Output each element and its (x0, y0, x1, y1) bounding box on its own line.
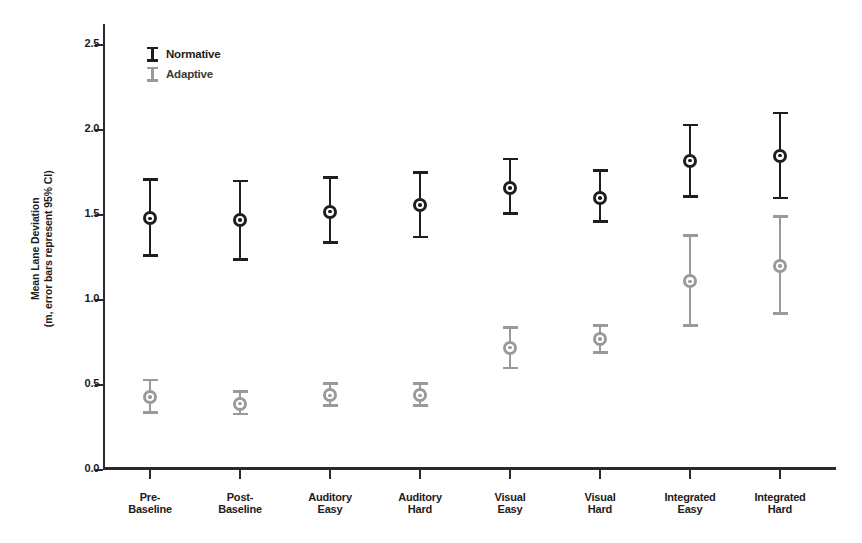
x-axis-line (103, 467, 836, 470)
x-tick-mark (329, 470, 331, 479)
y-tick-label: 1.0 (53, 292, 99, 304)
x-tick-label-line: Baseline (104, 503, 196, 516)
figure-canvas: Mean Lane Deviation (m, error bars repre… (0, 0, 862, 543)
x-tick-mark (509, 470, 511, 479)
chart-legend: NormativeAdaptive (146, 44, 220, 84)
data-point-center-dot (688, 280, 691, 283)
x-tick-label-line: Visual (464, 491, 556, 504)
data-point-errorbar (130, 24, 170, 470)
error-bar-cap-lower (413, 404, 428, 407)
x-tick-label-line: Hard (734, 503, 826, 516)
x-tick-label: IntegratedEasy (644, 491, 736, 516)
error-bar-cap-upper (413, 382, 428, 385)
y-axis-line (103, 24, 105, 470)
x-tick-label-line: Integrated (644, 491, 736, 504)
y-tick-label: 0.0 (53, 462, 99, 474)
data-point-center-dot (148, 395, 151, 398)
legend-item-label: Adaptive (166, 68, 213, 80)
x-tick-label: AuditoryHard (374, 491, 466, 516)
y-tick-label: 0.5 (53, 377, 99, 389)
y-tick-label: 2.0 (53, 122, 99, 134)
error-bar-cap-upper (503, 326, 518, 329)
x-tick-label-line: Hard (374, 503, 466, 516)
data-point-center-dot (778, 264, 781, 267)
x-tick-label-line: Post- (194, 491, 286, 504)
x-tick-label-line: Pre- (104, 491, 196, 504)
x-tick-label: IntegratedHard (734, 491, 826, 516)
data-point-errorbar (760, 24, 800, 470)
legend-errorbar-icon (146, 47, 159, 62)
error-bar-cap-upper (143, 379, 158, 382)
x-tick-label-line: Integrated (734, 491, 826, 504)
x-tick-label: Pre-Baseline (104, 491, 196, 516)
error-bar-cap-lower (773, 312, 788, 315)
legend-item-normative[interactable]: Normative (146, 44, 220, 64)
legend-errorbar-icon (146, 67, 159, 82)
x-tick-mark (689, 470, 691, 479)
error-bar-cap-lower (143, 411, 158, 414)
x-tick-label-line: Auditory (284, 491, 376, 504)
legend-item-label: Normative (166, 48, 220, 60)
x-tick-mark (419, 470, 421, 479)
x-tick-mark (599, 470, 601, 479)
x-tick-label-line: Baseline (194, 503, 286, 516)
data-point-center-dot (328, 394, 331, 397)
error-bar-cap-upper (593, 324, 608, 327)
plot-area: 0.00.51.01.52.02.5 Pre-BaselinePost-Base… (103, 24, 836, 470)
x-tick-mark (149, 470, 151, 479)
error-bar-cap-upper (683, 234, 698, 237)
data-point-errorbar (490, 24, 530, 470)
error-bar-cap-upper (233, 390, 248, 393)
x-tick-mark (779, 470, 781, 479)
data-point-errorbar (670, 24, 710, 470)
x-tick-label-line: Easy (284, 503, 376, 516)
y-tick-label: 2.5 (53, 37, 99, 49)
error-bar-cap-lower (683, 324, 698, 327)
x-tick-label: VisualHard (554, 491, 646, 516)
error-bar-cap-lower (323, 404, 338, 407)
error-bar-cap-lower (503, 367, 518, 370)
legend-item-adaptive[interactable]: Adaptive (146, 64, 220, 84)
data-point-center-dot (508, 346, 511, 349)
y-tick-label: 1.5 (53, 207, 99, 219)
x-tick-label-line: Easy (464, 503, 556, 516)
x-tick-label: AuditoryEasy (284, 491, 376, 516)
error-bar-cap-lower (233, 413, 248, 416)
x-tick-mark (239, 470, 241, 479)
x-tick-label-line: Visual (554, 491, 646, 504)
data-point-errorbar (580, 24, 620, 470)
y-axis-label-line2: (m, error bars represent 95% CI) (42, 89, 55, 409)
x-tick-label: Post-Baseline (194, 491, 286, 516)
x-tick-label-line: Easy (644, 503, 736, 516)
y-axis-label: Mean Lane Deviation (m, error bars repre… (29, 89, 55, 409)
error-bar-cap-upper (773, 215, 788, 218)
y-axis-label-line1: Mean Lane Deviation (29, 89, 42, 409)
data-point-errorbar (400, 24, 440, 470)
data-point-errorbar (310, 24, 350, 470)
data-point-center-dot (418, 394, 421, 397)
data-point-errorbar (220, 24, 260, 470)
data-point-center-dot (598, 337, 601, 340)
x-tick-label: VisualEasy (464, 491, 556, 516)
x-tick-label-line: Hard (554, 503, 646, 516)
x-tick-label-line: Auditory (374, 491, 466, 504)
error-bar-cap-lower (593, 351, 608, 354)
error-bar-cap-upper (323, 382, 338, 385)
